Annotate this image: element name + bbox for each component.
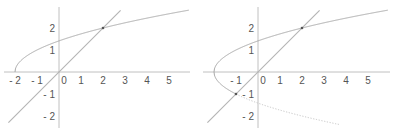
y-tick-label: - 1 xyxy=(43,89,55,100)
x-tick-label: 4 xyxy=(144,75,150,86)
x-tick-label: 3 xyxy=(122,75,128,86)
x-tick-label: - 1 xyxy=(31,75,43,86)
x-tick-label: 4 xyxy=(343,75,349,86)
y-tick-label: 1 xyxy=(248,45,254,56)
x-tick-label: 0 xyxy=(260,75,266,86)
intersection-point xyxy=(102,27,105,30)
intersection-point xyxy=(235,93,238,96)
x-tick-label: - 1 xyxy=(230,75,242,86)
intersection-point xyxy=(301,27,304,30)
x-tick-label: 2 xyxy=(299,75,305,86)
x-tick-label: 2 xyxy=(100,75,106,86)
x-tick-label: 5 xyxy=(365,75,371,86)
chart-canvas: - 2- 101234521- 1- 2 - 101234521- 1- 2 xyxy=(0,0,395,132)
left-plot: - 2- 101234521- 1- 2 xyxy=(4,7,190,128)
y-tick-label: 2 xyxy=(49,23,55,34)
y-tick-label: - 2 xyxy=(43,111,55,122)
x-tick-label: 1 xyxy=(277,75,283,86)
y-tick-label: - 1 xyxy=(242,89,254,100)
curve-upper-branch xyxy=(214,10,388,72)
curve-upper-branch xyxy=(15,10,189,72)
right-plot: - 101234521- 1- 2 xyxy=(203,7,390,128)
x-tick-label: 3 xyxy=(321,75,327,86)
x-tick-label: 1 xyxy=(78,75,84,86)
x-tick-label: 5 xyxy=(166,75,172,86)
x-tick-label: 0 xyxy=(61,75,67,86)
y-tick-label: - 2 xyxy=(242,111,254,122)
x-tick-label: - 2 xyxy=(9,75,21,86)
y-tick-label: 2 xyxy=(248,23,254,34)
y-tick-label: 1 xyxy=(49,45,55,56)
